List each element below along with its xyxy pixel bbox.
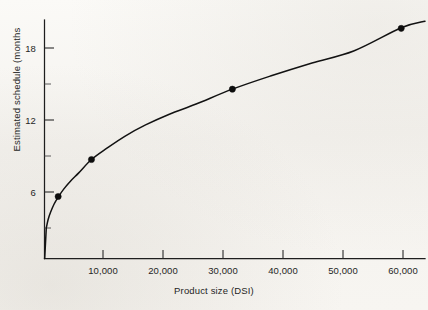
x-tick-label-60000: 60,000	[388, 265, 418, 276]
y-axis-title: Estimated schedule (months	[11, 10, 22, 170]
data-point	[229, 86, 235, 92]
x-tick-label-20000: 20,000	[148, 265, 178, 276]
x-tick-label-40000: 40,000	[268, 265, 298, 276]
plot-area	[0, 0, 428, 310]
estimated-schedule-curve	[45, 21, 425, 258]
y-tick-label-6: 6	[10, 187, 36, 198]
data-point	[398, 25, 404, 31]
data-point	[55, 193, 61, 199]
x-tick-label-50000: 50,000	[328, 265, 358, 276]
x-tick-label-10000: 10,000	[88, 265, 118, 276]
data-point	[88, 156, 94, 162]
x-axis-title: Product size (DSI)	[0, 285, 428, 296]
x-tick-label-30000: 30,000	[208, 265, 238, 276]
chart-figure: 18 12 6 10,000 20,000 30,000 40,000 50,0…	[0, 0, 428, 310]
